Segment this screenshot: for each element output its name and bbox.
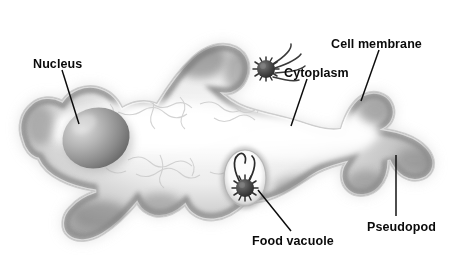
label-nucleus: Nucleus [33, 57, 82, 71]
label-food-vacuole: Food vacuole [252, 234, 334, 248]
label-pseudopod: Pseudopod [367, 220, 436, 234]
label-cell-membrane: Cell membrane [331, 37, 422, 51]
amoeba-diagram-figure: Nucleus Cytoplasm Cell membrane Pseudopo… [0, 0, 453, 260]
diagram-canvas: Nucleus Cytoplasm Cell membrane Pseudopo… [0, 0, 453, 260]
label-cytoplasm: Cytoplasm [284, 66, 349, 80]
cytoplasm-leader [291, 79, 307, 126]
food-vacuole-organelle [221, 147, 269, 209]
